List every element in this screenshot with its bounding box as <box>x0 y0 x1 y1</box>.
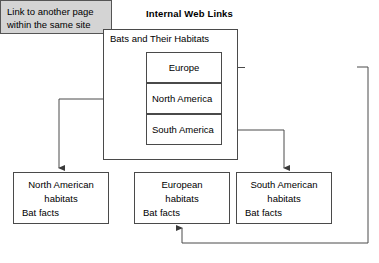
diagram-title: Internal Web Links <box>0 8 379 19</box>
leaf-head-line-2: habitats <box>245 192 331 206</box>
region-box-south-america[interactable]: South America <box>146 114 222 145</box>
leaf-head-line-2: habitats <box>22 192 108 206</box>
region-label-south-america: South America <box>152 124 214 135</box>
leaf-page-south-american[interactable]: South American habitats Bat facts <box>236 172 332 224</box>
leaf-sub-label: Bat facts <box>22 206 108 220</box>
diagram-canvas: Internal Web Links Bats and Their Habita… <box>0 0 379 263</box>
region-box-north-america[interactable]: North America <box>146 83 222 114</box>
callout-text-line-2: within the same site <box>7 18 105 31</box>
leaf-head-line-2: habitats <box>143 192 229 206</box>
outer-site-label: Bats and Their Habitats <box>110 33 209 44</box>
leaf-head-line-1: South American <box>245 178 331 192</box>
leaf-head-line-1: European <box>143 178 229 192</box>
region-box-europe[interactable]: Europe <box>146 52 222 83</box>
leaf-page-european[interactable]: European habitats Bat facts <box>134 172 230 224</box>
leaf-page-north-american[interactable]: North American habitats Bat facts <box>13 172 109 224</box>
region-label-europe: Europe <box>169 62 200 73</box>
region-label-north-america: North America <box>152 93 212 104</box>
leaf-head-line-1: North American <box>22 178 108 192</box>
leaf-sub-label: Bat facts <box>143 206 229 220</box>
leaf-sub-label: Bat facts <box>245 206 331 220</box>
